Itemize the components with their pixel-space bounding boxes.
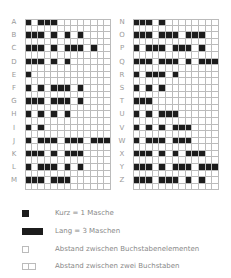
stitch-empty [173, 171, 180, 178]
stitch-empty [153, 171, 160, 178]
stitch-filled [159, 72, 166, 79]
stitch-filled [25, 125, 32, 132]
stitch-filled [186, 177, 193, 184]
stitch-empty [45, 98, 52, 105]
stitch-empty [186, 72, 193, 79]
stitch-filled [38, 32, 45, 39]
stitch-filled [173, 138, 180, 145]
stitch-empty [38, 184, 45, 191]
stitch-filled [153, 45, 160, 52]
stitch-filled [186, 45, 193, 52]
stitch-empty [45, 105, 52, 112]
stitch-empty [78, 19, 85, 26]
stitch-empty [212, 39, 219, 46]
stitch-empty [32, 171, 39, 178]
stitch-empty [186, 85, 193, 92]
stitch-empty [206, 72, 213, 79]
stitch-empty [38, 39, 45, 46]
stitch-empty [133, 105, 140, 112]
stitch-empty [192, 19, 199, 26]
stitch-empty [146, 26, 153, 33]
stitch-empty [65, 19, 72, 26]
stitch-empty [98, 72, 105, 79]
stitch-empty [98, 177, 105, 184]
stitch-empty [173, 105, 180, 112]
stitch-empty [91, 39, 98, 46]
stitch-empty [153, 144, 160, 151]
stitch-empty [179, 151, 186, 158]
stitch-empty [212, 118, 219, 125]
stitch-empty [84, 125, 91, 132]
stitch-empty [199, 111, 206, 118]
stitch-empty [84, 144, 91, 151]
stitch-empty [91, 157, 98, 164]
stitch-empty [58, 19, 65, 26]
stitch-filled [65, 111, 72, 118]
stitch-empty [65, 92, 72, 99]
stitch-empty [78, 125, 85, 132]
stitch-empty [179, 157, 186, 164]
stitch-empty [38, 92, 45, 99]
stitch-filled [179, 125, 186, 132]
stitch-filled [133, 164, 140, 171]
stitch-empty [199, 39, 206, 46]
stitch-empty [104, 111, 111, 118]
stitch-empty [71, 111, 78, 118]
stitch-empty [71, 184, 78, 191]
stitch-empty [179, 26, 186, 33]
stitch-empty [206, 32, 213, 39]
stitch-empty [140, 65, 147, 72]
stitch-empty [166, 78, 173, 85]
stitch-empty [199, 85, 206, 92]
stitch-empty [45, 72, 52, 79]
stitch-empty [58, 157, 65, 164]
stitch-empty [192, 39, 199, 46]
stitch-empty [199, 72, 206, 79]
spacer-row [133, 26, 219, 33]
spacer-row [25, 184, 111, 191]
stitch-filled [166, 177, 173, 184]
stitch-empty [98, 164, 105, 171]
stitch-empty [58, 151, 65, 158]
stitch-empty [140, 39, 147, 46]
stitch-empty [192, 85, 199, 92]
letter-label: H [9, 111, 19, 118]
stitch-empty [186, 157, 193, 164]
stitch-empty [153, 78, 160, 85]
stitch-empty [140, 85, 147, 92]
stitch-empty [84, 59, 91, 66]
stitch-empty [104, 39, 111, 46]
stitch-filled [32, 32, 39, 39]
stitch-empty [159, 98, 166, 105]
stitch-empty [104, 26, 111, 33]
stitch-empty [71, 65, 78, 72]
stitch-empty [58, 138, 65, 145]
stitch-filled [51, 164, 58, 171]
stitch-filled [71, 45, 78, 52]
letter-row-b: B [25, 32, 111, 39]
stitch-empty [159, 118, 166, 125]
stitch-empty [212, 78, 219, 85]
stitch-filled [186, 59, 193, 66]
stitch-filled [212, 59, 219, 66]
stitch-filled [133, 72, 140, 79]
legend-label: Abstand zwischen zwei Buchstaben [55, 262, 180, 270]
stitch-empty [71, 39, 78, 46]
stitch-filled [25, 111, 32, 118]
stitch-empty [78, 39, 85, 46]
stitch-filled [146, 98, 153, 105]
stitch-empty [84, 177, 91, 184]
stitch-empty [45, 45, 52, 52]
stitch-empty [32, 19, 39, 26]
stitch-empty [153, 85, 160, 92]
spacer-row [133, 157, 219, 164]
stitch-empty [153, 151, 160, 158]
stitch-filled [186, 125, 193, 132]
stitch-empty [45, 92, 52, 99]
stitch-empty [192, 45, 199, 52]
stitch-empty [146, 144, 153, 151]
stitch-filled [199, 45, 206, 52]
stitch-empty [104, 72, 111, 79]
stitch-empty [98, 59, 105, 66]
stitch-empty [84, 184, 91, 191]
